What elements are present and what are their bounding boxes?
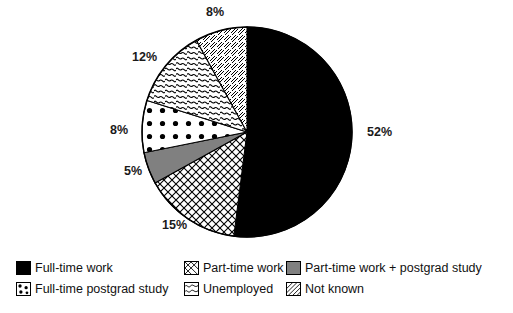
swatch-dots-icon [16, 282, 31, 296]
legend-item-part-time-plus-postgrad: Part-time work + postgrad study [286, 258, 482, 278]
slice-label-part-time-work: 15% [162, 219, 187, 232]
swatch-crosshatch-icon [184, 261, 199, 275]
swatch-solid-gray-icon [286, 261, 301, 275]
legend-item-unemployed: Unemployed [184, 279, 273, 299]
legend-item-full-time-work: Full-time work [16, 258, 113, 278]
legend-item-part-time-work: Part-time work [184, 258, 284, 278]
slice-label-not-known: 8% [206, 6, 224, 19]
legend-row: Full-time work Part-time work Part-time … [0, 258, 513, 278]
legend-item-not-known: Not known [286, 279, 364, 299]
legend: Full-time work Part-time work Part-time … [0, 255, 513, 313]
pie-slices [142, 27, 352, 237]
swatch-solid-black-icon [16, 261, 31, 275]
pie-slice-full-time-work [234, 27, 352, 237]
slice-label-full-time-work: 52% [367, 126, 392, 139]
slice-label-full-time-postgrad: 8% [110, 124, 128, 137]
chart-area: 52% 15% 5% 8% 12% 8% [0, 0, 513, 252]
pie-chart [0, 0, 513, 252]
legend-row: Full-time postgrad study Unemployed Not … [0, 279, 513, 299]
legend-label: Full-time work [35, 261, 113, 275]
legend-label: Part-time work [203, 261, 284, 275]
slice-label-part-time-plus-postgrad: 5% [124, 165, 142, 178]
legend-label: Full-time postgrad study [35, 282, 168, 296]
legend-label: Not known [305, 282, 364, 296]
legend-label: Part-time work + postgrad study [305, 261, 482, 275]
legend-item-full-time-postgrad: Full-time postgrad study [16, 279, 168, 299]
legend-label: Unemployed [203, 282, 273, 296]
swatch-diagonal-hatch-icon [286, 282, 301, 296]
swatch-squiggle-icon [184, 282, 199, 296]
slice-label-unemployed: 12% [132, 51, 157, 64]
